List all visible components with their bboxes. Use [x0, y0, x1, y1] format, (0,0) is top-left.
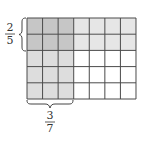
grid-cell — [43, 83, 59, 99]
grid-cell — [58, 18, 74, 34]
grid-cell — [105, 83, 121, 99]
fraction-area-model: 2 5 3 7 — [0, 0, 146, 144]
grid-cell — [27, 34, 43, 50]
grid-cell — [120, 34, 136, 50]
grid-cell — [74, 50, 90, 66]
row-fraction-numerator: 2 — [7, 21, 14, 34]
grid-cell — [120, 50, 136, 66]
grid-cell — [43, 50, 59, 66]
grid-cell — [74, 83, 90, 99]
grid-cell — [58, 34, 74, 50]
grid-cell — [43, 34, 59, 50]
grid-cell — [105, 34, 121, 50]
grid-cell — [120, 67, 136, 83]
grid-cell — [43, 67, 59, 83]
row-fraction-denominator: 5 — [7, 34, 14, 47]
grid-cell — [74, 67, 90, 83]
grid-cell — [58, 67, 74, 83]
grid-cell — [27, 18, 43, 34]
column-fraction-numerator: 3 — [47, 109, 54, 122]
grid-cell — [58, 83, 74, 99]
grid-cell — [89, 83, 105, 99]
grid-cell — [89, 18, 105, 34]
bottom-brace-icon — [27, 100, 73, 108]
grid-cell — [120, 18, 136, 34]
grid-cell — [58, 50, 74, 66]
grid-cell — [105, 67, 121, 83]
grid-cell — [74, 34, 90, 50]
grid-cell — [105, 50, 121, 66]
column-fraction-denominator: 7 — [47, 122, 54, 135]
grid-cell — [89, 34, 105, 50]
grid-cell — [74, 18, 90, 34]
grid-cell — [27, 83, 43, 99]
grid-cell — [89, 50, 105, 66]
grid-cell — [43, 18, 59, 34]
grid-cells — [27, 18, 136, 99]
grid-cell — [89, 67, 105, 83]
grid-cell — [27, 67, 43, 83]
left-brace-icon — [19, 18, 26, 51]
grid-cell — [27, 50, 43, 66]
grid-cell — [105, 18, 121, 34]
grid-cell — [120, 83, 136, 99]
